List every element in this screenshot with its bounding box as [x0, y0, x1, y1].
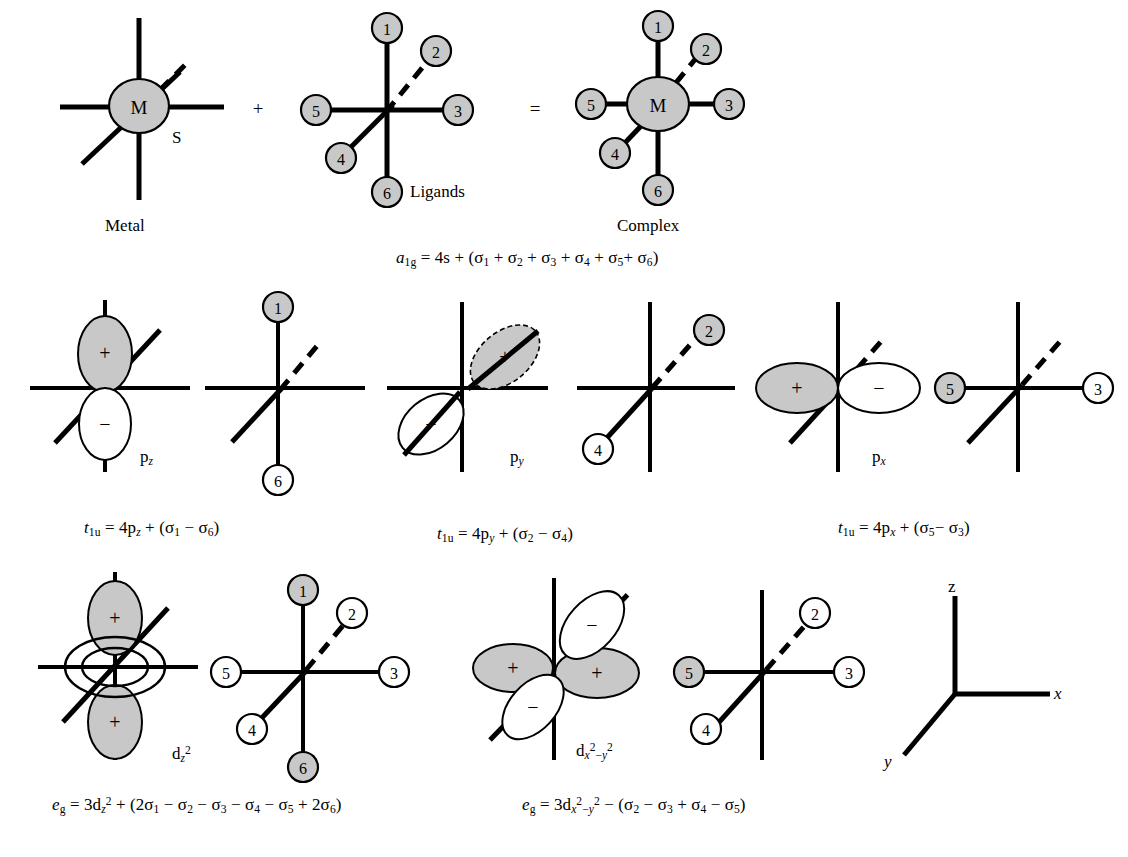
complex-ligand-2: 2 [691, 34, 721, 64]
dx2y2-minus-sign-upper: − [586, 614, 597, 636]
complex-ligand-1: 1 [643, 11, 673, 41]
plus-operator: + [253, 98, 264, 119]
dz2-plus-sign-bottom: + [109, 711, 120, 733]
diagram-svg: .ax{stroke:#000;stroke-width:5;stroke-li… [0, 0, 1128, 857]
s-orbital-label: S [172, 128, 181, 148]
svg-text:5: 5 [587, 97, 595, 114]
px-ligand-5: 5 [935, 373, 965, 403]
svg-text:2: 2 [702, 42, 710, 59]
complex-ligand-4: 4 [600, 138, 630, 168]
ligand-2: 2 [421, 36, 451, 66]
complex-caption: Complex [617, 216, 679, 236]
svg-text:3: 3 [390, 665, 398, 682]
complex-ligand-5: 5 [576, 89, 606, 119]
dx2y2-ligand-frame: 2 3 4 5 [674, 590, 864, 760]
px-plus-sign: + [791, 377, 802, 399]
svg-text:2: 2 [811, 606, 819, 623]
dz2-ligand-5: 5 [211, 657, 241, 687]
px-ligand-frame: 5 3 [935, 302, 1113, 472]
svg-text:6: 6 [383, 185, 391, 202]
py-ligand-frame: 2 4 [577, 302, 735, 472]
dz2-ligand-frame: 1 2 3 4 5 6 [211, 575, 409, 782]
equation-t1u-py: t1u = 4py + (σ2 − σ4) [437, 524, 573, 545]
svg-text:3: 3 [845, 665, 853, 682]
py-ligand-4: 4 [583, 434, 613, 464]
svg-text:3: 3 [454, 103, 462, 120]
dx2y2-ligand-4: 4 [691, 714, 721, 744]
svg-text:4: 4 [337, 151, 345, 168]
dx2y2-ligand-5: 5 [674, 657, 704, 687]
svg-text:3: 3 [725, 97, 733, 114]
svg-text:6: 6 [654, 183, 662, 200]
svg-text:2: 2 [705, 323, 713, 340]
dx2y2-minus-sign-lower: − [527, 696, 538, 718]
svg-text:1: 1 [383, 21, 391, 38]
ligand-5: 5 [301, 95, 331, 125]
dx2y2-label: dx2−y2 [576, 741, 613, 762]
dz2-plus-sign-top: + [109, 607, 120, 629]
svg-text:5: 5 [946, 381, 954, 398]
axis-label-z: z [948, 577, 956, 597]
svg-text:6: 6 [299, 760, 307, 777]
svg-text:2: 2 [432, 44, 440, 61]
dx2y2-plus-sign-right: + [591, 662, 602, 684]
equation-eg-dx2y2: eg = 3dx2−y2 − (σ2 − σ3 + σ4 − σ5) [522, 795, 746, 816]
svg-text:5: 5 [222, 665, 230, 682]
ligand-6: 6 [372, 177, 402, 207]
px-orbital-diagram: + − [756, 302, 920, 472]
svg-text:4: 4 [594, 442, 602, 459]
complex-diagram: M 1 2 3 4 5 6 [576, 11, 744, 205]
axis-label-x: x [1054, 684, 1062, 704]
dx2y2-ligand-3: 3 [834, 657, 864, 687]
svg-text:3: 3 [1094, 381, 1102, 398]
svg-text:4: 4 [702, 722, 710, 739]
pz-label: pz [140, 447, 153, 468]
dz2-ligand-4: 4 [237, 714, 267, 744]
svg-text:1: 1 [654, 19, 662, 36]
plus-operator-group: + [253, 98, 264, 119]
svg-text:6: 6 [274, 473, 282, 490]
dx2y2-plus-sign-left: + [507, 657, 518, 679]
pz-orbital-diagram: + − [30, 300, 190, 472]
dz2-ligand-3: 3 [379, 657, 409, 687]
svg-text:1: 1 [274, 300, 282, 317]
svg-text:4: 4 [248, 722, 256, 739]
equals-operator-group: = [530, 98, 541, 119]
px-label: px [872, 447, 886, 468]
equation-t1u-px: t1u = 4px + (σ5− σ3) [838, 518, 970, 539]
pz-plus-sign: + [99, 342, 110, 364]
px-minus-sign: − [873, 377, 884, 399]
ligand-1: 1 [372, 13, 402, 43]
axes-key-diagram [904, 596, 1050, 755]
dx2y2-orbital-diagram: + + − − [473, 578, 639, 760]
equals-operator: = [530, 98, 541, 119]
px-ligand-3: 3 [1083, 373, 1113, 403]
complex-ligand-3: 3 [714, 89, 744, 119]
dz2-minus-sign: − [93, 660, 102, 677]
figure-canvas: .ax{stroke:#000;stroke-width:5;stroke-li… [0, 0, 1128, 857]
dz2-label: dz2 [172, 744, 191, 765]
dz2-ligand-1: 1 [288, 575, 318, 605]
metal-center-diagram: M [60, 18, 224, 200]
dz2-ligand-6: 6 [288, 752, 318, 782]
dz2-orbital-diagram: + + − [38, 572, 198, 760]
pz-minus-sign: − [99, 413, 110, 435]
equation-t1u-pz: t1u = 4pz + (σ1 − σ6) [84, 518, 219, 539]
pz-ligand-1: 1 [263, 292, 293, 322]
svg-text:2: 2 [348, 606, 356, 623]
ligands-caption: Ligands [410, 182, 465, 202]
axis-label-y: y [884, 752, 892, 772]
dz2-ligand-2: 2 [337, 598, 367, 628]
pz-ligand-6: 6 [263, 465, 293, 495]
equation-eg-dz2: eg = 3dz2 + (2σ1 − σ2 − σ3 − σ4 − σ5 + 2… [52, 795, 342, 816]
equation-a1g: a1g = 4s + (σ1 + σ2 + σ3 + σ4 + σ5+ σ6) [396, 248, 658, 269]
py-orbital-diagram: + − [387, 302, 552, 472]
pz-ligand-frame: 1 6 [205, 292, 365, 495]
svg-text:5: 5 [312, 103, 320, 120]
py-ligand-2: 2 [694, 315, 724, 345]
metal-atom-label: M [131, 97, 148, 118]
svg-text:4: 4 [611, 146, 619, 163]
metal-caption: Metal [105, 216, 145, 236]
complex-metal-label: M [650, 95, 667, 116]
svg-text:5: 5 [685, 665, 693, 682]
